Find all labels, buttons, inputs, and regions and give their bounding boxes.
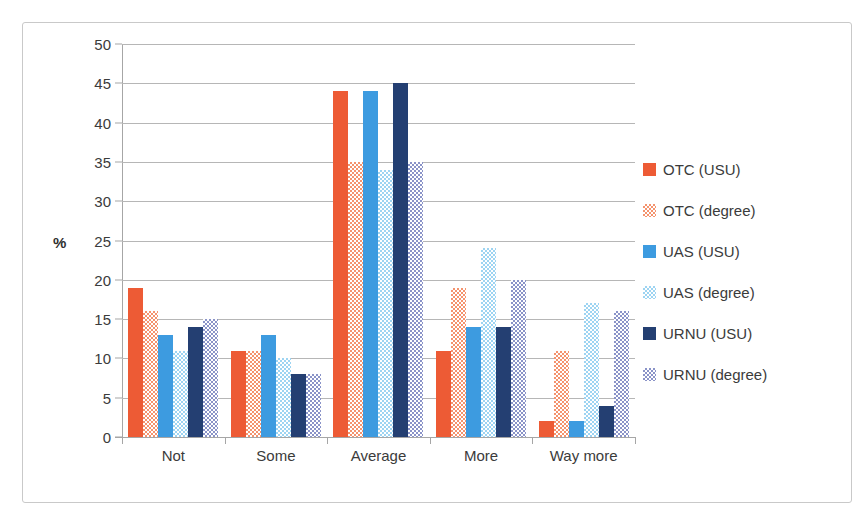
x-axis-line: [115, 437, 635, 438]
chart-plot-wrapper: % 50454035302520151050 NotSomeAverageMor…: [23, 23, 851, 502]
bar[interactable]: [554, 351, 569, 437]
y-tick-mark: [115, 83, 122, 84]
x-axis-separator: [532, 437, 533, 444]
bar[interactable]: [511, 280, 526, 437]
x-tick-label: Way more: [532, 447, 635, 464]
legend-label: OTC (degree): [663, 202, 756, 219]
y-tick-label: 35: [94, 153, 111, 170]
y-tick-mark: [115, 44, 122, 45]
x-tick-label: Not: [122, 447, 225, 464]
bar[interactable]: [261, 335, 276, 437]
bar[interactable]: [451, 288, 466, 437]
bar[interactable]: [481, 248, 496, 437]
y-tick-mark: [115, 161, 122, 162]
bar[interactable]: [306, 374, 321, 437]
bar[interactable]: [276, 358, 291, 437]
y-tick-label: 50: [94, 36, 111, 53]
bar[interactable]: [539, 421, 554, 437]
legend-swatch-icon: [643, 204, 656, 217]
y-tick-label: 0: [103, 429, 111, 446]
legend-swatch-icon: [643, 327, 656, 340]
y-tick-mark: [115, 397, 122, 398]
bar[interactable]: [378, 170, 393, 437]
x-axis-separator: [430, 437, 431, 444]
y-tick-mark: [115, 319, 122, 320]
legend-item[interactable]: UAS (USU): [643, 231, 843, 272]
legend-label: UAS (degree): [663, 284, 755, 301]
x-axis-tick-labels: NotSomeAverageMoreWay more: [122, 447, 635, 464]
y-tick-label: 10: [94, 350, 111, 367]
bar[interactable]: [436, 351, 451, 437]
chart-legend: OTC (USU)OTC (degree)UAS (USU)UAS (degre…: [643, 149, 843, 395]
bar[interactable]: [584, 303, 599, 437]
y-axis-tick-labels: 50454035302520151050: [73, 23, 111, 502]
y-tick-label: 15: [94, 311, 111, 328]
bar[interactable]: [231, 351, 246, 437]
x-tick-label: Some: [225, 447, 328, 464]
bar[interactable]: [333, 91, 348, 437]
bar[interactable]: [496, 327, 511, 437]
bar[interactable]: [143, 311, 158, 437]
bar[interactable]: [393, 83, 408, 437]
bar[interactable]: [348, 162, 363, 437]
bar[interactable]: [569, 421, 584, 437]
legend-swatch-icon: [643, 245, 656, 258]
bar-group: [327, 44, 430, 437]
legend-item[interactable]: OTC (USU): [643, 149, 843, 190]
legend-swatch-icon: [643, 286, 656, 299]
legend-item[interactable]: URNU (degree): [643, 354, 843, 395]
y-tick-mark: [115, 122, 122, 123]
legend-swatch-icon: [643, 368, 656, 381]
bar-group: [532, 44, 635, 437]
bar[interactable]: [246, 351, 261, 437]
bar[interactable]: [188, 327, 203, 437]
chart-frame: % 50454035302520151050 NotSomeAverageMor…: [22, 22, 852, 503]
bar-group: [225, 44, 328, 437]
bar[interactable]: [128, 288, 143, 437]
legend-item[interactable]: URNU (USU): [643, 313, 843, 354]
y-tick-label: 5: [103, 389, 111, 406]
bar-group: [122, 44, 225, 437]
y-tick-mark: [115, 201, 122, 202]
bar[interactable]: [408, 162, 423, 437]
y-tick-mark: [115, 240, 122, 241]
y-tick-label: 25: [94, 232, 111, 249]
legend-item[interactable]: OTC (degree): [643, 190, 843, 231]
x-axis-separator: [122, 437, 123, 444]
x-axis-separator: [327, 437, 328, 444]
bars-layer: [122, 44, 635, 437]
legend-label: OTC (USU): [663, 161, 741, 178]
x-tick-label: More: [430, 447, 533, 464]
bar[interactable]: [599, 406, 614, 437]
bar[interactable]: [158, 335, 173, 437]
legend-label: URNU (degree): [663, 366, 767, 383]
legend-item[interactable]: UAS (degree): [643, 272, 843, 313]
y-tick-label: 45: [94, 75, 111, 92]
y-tick-label: 20: [94, 271, 111, 288]
y-tick-mark: [115, 279, 122, 280]
x-axis-separator: [225, 437, 226, 444]
bar-group: [430, 44, 533, 437]
bar[interactable]: [203, 319, 218, 437]
x-tick-label: Average: [327, 447, 430, 464]
legend-label: UAS (USU): [663, 243, 740, 260]
bar[interactable]: [614, 311, 629, 437]
y-tick-label: 40: [94, 114, 111, 131]
legend-label: URNU (USU): [663, 325, 752, 342]
y-axis-title: %: [53, 234, 66, 251]
y-tick-label: 30: [94, 193, 111, 210]
y-tick-mark: [115, 358, 122, 359]
x-axis-separator: [635, 437, 636, 444]
bar[interactable]: [363, 91, 378, 437]
plot-area: [122, 44, 635, 437]
bar[interactable]: [466, 327, 481, 437]
legend-swatch-icon: [643, 163, 656, 176]
bar[interactable]: [173, 351, 188, 437]
bar[interactable]: [291, 374, 306, 437]
